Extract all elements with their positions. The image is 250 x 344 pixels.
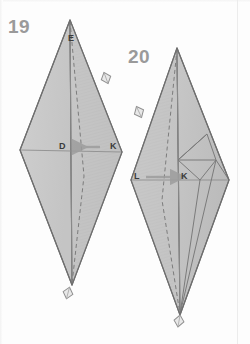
figure-20-marker-upper-left-icon	[132, 104, 146, 119]
diagram-page: 19 20 E D K L K	[0, 0, 250, 344]
figure-19-label-E: E	[68, 33, 74, 43]
origami-figures-canvas	[0, 0, 250, 344]
figure-20-label-K: K	[181, 171, 188, 181]
figure-20-label-L: L	[134, 171, 140, 181]
figure-19-label-D: D	[59, 141, 66, 151]
figure-20-marker-bottom-icon	[173, 314, 185, 328]
figure-19-label-K: K	[110, 141, 117, 151]
figure-20-right-face	[177, 48, 229, 315]
figure-19-group	[20, 20, 122, 300]
step-20-number: 20	[128, 46, 150, 68]
figure-20-group	[131, 48, 229, 328]
step-19-number: 19	[8, 16, 30, 38]
figure-19-marker-bottom-icon	[62, 286, 75, 300]
figure-19-left-face	[20, 20, 72, 285]
figure-19-marker-upper-right-icon	[99, 71, 113, 86]
